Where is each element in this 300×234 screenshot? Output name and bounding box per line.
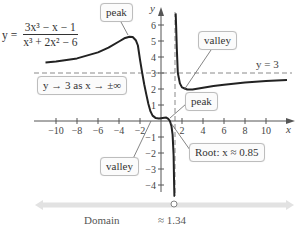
function-equation: y = 3x³ − x − 1 x³ + 2x² − 6 — [2, 21, 80, 49]
equation-denominator: x³ + 2x² − 6 — [21, 35, 79, 49]
callout-peak-low: peak — [185, 92, 218, 111]
y-tick-label: −1 — [145, 132, 156, 143]
y-axis-label: y — [149, 2, 155, 14]
equation-numerator: 3x³ − x − 1 — [23, 21, 78, 35]
x-tick-label: 8 — [243, 125, 248, 136]
x-axis-label: x — [285, 123, 291, 135]
callout-valley-top: valley — [198, 31, 237, 50]
equation-lhs: y = — [2, 29, 17, 41]
horizontal-asymptote-label: y = 3 — [256, 58, 279, 70]
x-tick-label: 10 — [261, 125, 271, 136]
x-tick-label: −8 — [72, 125, 83, 136]
x-tick-label: 6 — [222, 125, 227, 136]
y-tick-label: 2 — [151, 84, 156, 95]
callout-root: Root: x ≈ 0.85 — [189, 143, 265, 162]
y-tick-label: −4 — [145, 180, 156, 191]
y-tick-label: −2 — [145, 148, 156, 159]
y-axis — [158, 7, 164, 192]
y-tick-label: 4 — [151, 52, 156, 63]
x-tick-label: −4 — [114, 125, 125, 136]
y-tick-label: 5 — [151, 36, 156, 47]
callout-valley-low: valley — [100, 157, 139, 176]
y-tick-labels: −4−3−2−1123456 — [145, 20, 156, 191]
excluded-value-label: ≈ 1.34 — [158, 214, 186, 226]
domain-bar — [35, 200, 294, 210]
callout-limit: y → 3 as x → ±∞ — [37, 76, 127, 95]
x-tick-label: 2 — [180, 125, 185, 136]
x-tick-labels: −10−8−6−4−2246810 — [48, 125, 271, 136]
y-tick-label: 3 — [151, 68, 156, 79]
equation-fraction: 3x³ − x − 1 x³ + 2x² − 6 — [21, 21, 79, 49]
y-tick-label: 6 — [151, 20, 156, 31]
domain-label: Domain — [84, 214, 119, 226]
y-tick-label: −3 — [145, 164, 156, 175]
x-tick-label: 4 — [201, 125, 206, 136]
callout-peak-top: peak — [100, 3, 133, 22]
x-tick-label: −6 — [93, 125, 104, 136]
x-axis — [34, 118, 295, 124]
y-tick-label: 1 — [151, 100, 156, 111]
excluded-point-marker — [171, 201, 177, 207]
x-tick-label: −10 — [48, 125, 64, 136]
x-tick-label: −2 — [135, 125, 146, 136]
